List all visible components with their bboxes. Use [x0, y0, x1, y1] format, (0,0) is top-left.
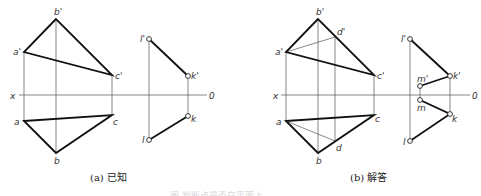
label-x: x [9, 91, 16, 101]
label-k-prime: k' [453, 71, 461, 81]
point-l-prime [147, 37, 152, 42]
point-m [418, 98, 423, 103]
point-k-prime [448, 74, 453, 79]
label-b: b [316, 156, 322, 166]
projection-diagram: b' a' c' x 0 a c b l' k' k l (a) 已知 [0, 0, 481, 196]
caption-a: (a) 已知 [90, 171, 127, 183]
triangle-top-view [286, 115, 374, 153]
label-k: k [452, 114, 458, 124]
point-m-prime [418, 84, 423, 89]
triangle-front-view [286, 19, 374, 75]
triangle-top-view [24, 115, 112, 153]
label-k-prime: k' [191, 71, 199, 81]
label-l-prime: l' [140, 34, 145, 44]
label-c-prime: c' [377, 71, 384, 81]
label-b-prime: b' [316, 7, 324, 17]
aux-line-a-d [286, 121, 335, 141]
label-l-prime: l' [401, 34, 406, 44]
label-d: d [336, 143, 342, 153]
label-c: c [375, 114, 380, 124]
point-k [186, 114, 191, 119]
point-k-prime [186, 74, 191, 79]
label-k: k [191, 114, 197, 124]
label-c-prime: c' [115, 71, 122, 81]
label-l: l [142, 135, 145, 145]
label-a-prime: a' [13, 47, 21, 57]
polyline-front-view [410, 39, 450, 86]
label-c: c [113, 117, 118, 127]
figure-caption: 图 判断点是否在平面上 [170, 190, 263, 196]
label-m-prime: m' [417, 74, 428, 84]
line-l-prime-k-prime [149, 39, 188, 76]
label-origin: 0 [472, 91, 478, 101]
label-a-prime: a' [275, 47, 283, 57]
triangle-front-view [24, 19, 112, 75]
point-l [408, 139, 413, 144]
label-a: a [276, 117, 282, 127]
polyline-top-view [410, 100, 450, 141]
point-l-prime [408, 37, 413, 42]
label-a: a [14, 117, 20, 127]
label-b: b [54, 156, 60, 166]
line-l-k [149, 116, 188, 140]
figure-b: b' d' a' c' x 0 a c d b l' k' m' m k l (… [272, 7, 478, 183]
label-l: l [403, 137, 406, 147]
label-d-prime: d' [337, 27, 345, 37]
label-origin: 0 [209, 91, 215, 101]
caption-b: (b) 解答 [350, 171, 387, 183]
label-b-prime: b' [54, 7, 62, 17]
figure-a: b' a' c' x 0 a c b l' k' k l (a) 已知 [9, 7, 215, 183]
point-l [147, 138, 152, 143]
label-m: m [417, 103, 426, 113]
label-x: x [272, 91, 279, 101]
